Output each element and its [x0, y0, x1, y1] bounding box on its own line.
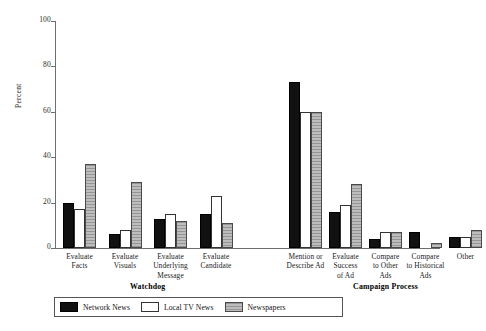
bar-group — [449, 21, 482, 248]
y-axis-title: Percent — [14, 83, 23, 108]
bar-group — [289, 21, 322, 248]
bar-group — [109, 21, 142, 248]
bar — [120, 230, 131, 248]
bar-group — [329, 21, 362, 248]
bar — [329, 212, 340, 248]
y-tick-label: 100 — [39, 15, 51, 25]
y-tick-label: 20 — [43, 197, 51, 207]
y-tick-mark — [51, 112, 56, 113]
bar — [289, 82, 300, 248]
group-title: Campaign Process — [289, 282, 482, 291]
bar — [431, 243, 442, 248]
bar — [109, 234, 120, 248]
bar — [300, 112, 311, 248]
y-tick-mark — [51, 203, 56, 204]
y-tick-mark — [51, 66, 56, 67]
bar — [471, 230, 482, 248]
bar — [351, 184, 362, 248]
y-tick-label: 60 — [43, 106, 51, 116]
bar — [176, 221, 187, 248]
legend-item: Local TV News — [141, 302, 214, 312]
y-tick-mark — [51, 21, 56, 22]
legend-swatch-icon — [225, 302, 243, 312]
bar — [460, 237, 471, 248]
legend-label: Local TV News — [164, 303, 214, 312]
legend-item: Newspapers — [225, 302, 286, 312]
y-tick-label: 80 — [43, 60, 51, 70]
bar — [74, 209, 85, 248]
bar — [380, 232, 391, 248]
legend-label: Newspapers — [248, 303, 286, 312]
bar — [409, 232, 420, 248]
legend-label: Network News — [83, 303, 130, 312]
bar — [85, 164, 96, 248]
y-tick-label: 40 — [43, 151, 51, 161]
group-title: Watchdog — [63, 282, 233, 291]
bar — [311, 112, 322, 248]
bar — [63, 203, 74, 248]
x-category-label: Other — [437, 252, 486, 261]
bar-group — [369, 21, 402, 248]
bar-group — [200, 21, 233, 248]
bar — [222, 223, 233, 248]
bar — [200, 214, 211, 248]
bar-group — [63, 21, 96, 248]
bar — [131, 182, 142, 248]
y-tick-mark — [51, 248, 56, 249]
y-tick-mark — [51, 157, 56, 158]
legend-swatch-icon — [60, 302, 78, 312]
bar-group — [409, 21, 442, 248]
chart-legend: Network NewsLocal TV NewsNewspapers — [54, 297, 343, 317]
legend-item: Network News — [60, 302, 130, 312]
legend-swatch-icon — [141, 302, 159, 312]
bar — [391, 232, 402, 248]
y-tick-label: 0 — [47, 242, 51, 252]
bar — [154, 219, 165, 249]
bar-group — [154, 21, 187, 248]
bar — [369, 239, 380, 248]
x-axis-line — [55, 248, 440, 249]
x-category-label: Evaluate Candidate — [187, 252, 245, 271]
bar — [165, 214, 176, 248]
bar — [340, 205, 351, 248]
plot-area — [55, 21, 440, 248]
bar — [211, 196, 222, 248]
bar — [449, 237, 460, 248]
